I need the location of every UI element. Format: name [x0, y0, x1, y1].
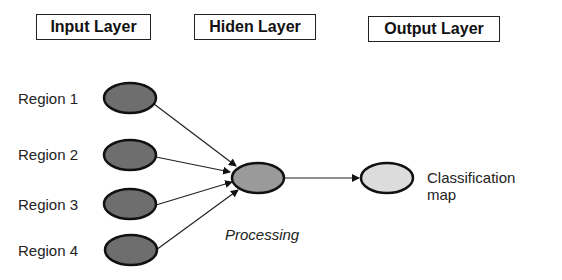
processing-label: Processing: [225, 226, 300, 243]
input-node-region2: [104, 140, 156, 170]
network-diagram: Region 1 Region 2 Region 3 Region 4 Proc…: [0, 0, 562, 280]
map-label: map: [427, 186, 456, 203]
edge-region2-hidden: [156, 157, 230, 172]
region3-label: Region 3: [18, 196, 78, 213]
region2-label: Region 2: [18, 146, 78, 163]
edge-region3-hidden: [156, 182, 232, 205]
classification-label: Classification: [427, 169, 515, 186]
hidden-node: [232, 163, 284, 193]
input-node-region3: [104, 189, 156, 219]
region4-label: Region 4: [18, 242, 78, 259]
region1-label: Region 1: [18, 90, 78, 107]
input-node-region4: [105, 235, 157, 265]
output-node: [361, 163, 413, 193]
input-node-region1: [104, 83, 156, 113]
edge-region1-hidden: [154, 104, 236, 166]
